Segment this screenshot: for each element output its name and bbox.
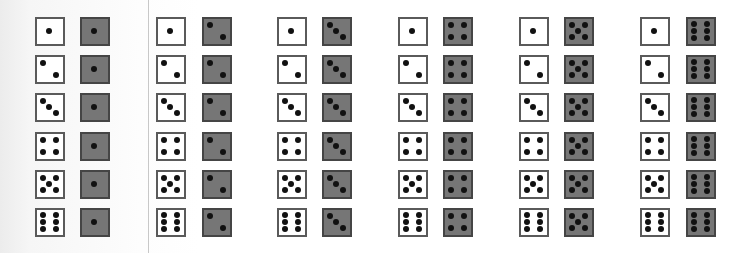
white-die-4 bbox=[519, 132, 549, 161]
pip-icon bbox=[91, 66, 97, 72]
dark-die-3 bbox=[322, 55, 352, 84]
white-die-1 bbox=[640, 17, 670, 46]
pip-icon bbox=[282, 219, 288, 225]
white-die-5 bbox=[277, 170, 307, 199]
pip-icon bbox=[582, 98, 588, 104]
pip-icon bbox=[40, 98, 46, 104]
pip-icon bbox=[448, 98, 454, 104]
pip-icon bbox=[645, 149, 651, 155]
pip-icon bbox=[575, 143, 581, 149]
white-die-4 bbox=[277, 132, 307, 161]
pip-icon bbox=[207, 213, 213, 219]
pip-icon bbox=[282, 212, 288, 218]
pip-icon bbox=[161, 226, 167, 232]
dark-die-3 bbox=[322, 132, 352, 161]
pip-icon bbox=[461, 98, 467, 104]
pip-icon bbox=[295, 72, 301, 78]
pip-icon bbox=[569, 98, 575, 104]
pip-icon bbox=[40, 137, 46, 143]
pip-icon bbox=[530, 28, 536, 34]
pip-icon bbox=[691, 111, 697, 117]
pip-icon bbox=[448, 137, 454, 143]
pip-icon bbox=[53, 212, 59, 218]
pip-icon bbox=[416, 187, 422, 193]
white-die-2 bbox=[35, 55, 65, 84]
pip-icon bbox=[53, 187, 59, 193]
pip-icon bbox=[174, 149, 180, 155]
pip-icon bbox=[582, 22, 588, 28]
dark-die-2 bbox=[202, 93, 232, 122]
pip-icon bbox=[691, 35, 697, 41]
pip-icon bbox=[704, 181, 710, 187]
white-die-4 bbox=[640, 132, 670, 161]
pip-icon bbox=[53, 219, 59, 225]
pip-icon bbox=[220, 110, 226, 116]
pip-icon bbox=[524, 175, 530, 181]
white-die-3 bbox=[156, 93, 186, 122]
dark-die-6 bbox=[686, 132, 716, 161]
dark-die-6 bbox=[686, 93, 716, 122]
dark-die-2 bbox=[202, 208, 232, 237]
pip-icon bbox=[448, 149, 454, 155]
pip-icon bbox=[537, 187, 543, 193]
pip-icon bbox=[53, 226, 59, 232]
dark-die-1 bbox=[80, 55, 110, 84]
pip-icon bbox=[691, 150, 697, 156]
pip-icon bbox=[645, 219, 651, 225]
white-die-1 bbox=[398, 17, 428, 46]
dark-die-6 bbox=[686, 17, 716, 46]
pip-icon bbox=[461, 213, 467, 219]
pip-icon bbox=[582, 187, 588, 193]
white-die-3 bbox=[35, 93, 65, 122]
pip-icon bbox=[416, 72, 422, 78]
white-die-1 bbox=[35, 17, 65, 46]
pip-icon bbox=[220, 149, 226, 155]
pip-icon bbox=[327, 22, 333, 28]
dark-die-3 bbox=[322, 93, 352, 122]
pip-icon bbox=[651, 104, 657, 110]
pip-icon bbox=[691, 66, 697, 72]
dark-die-4 bbox=[443, 170, 473, 199]
pip-icon bbox=[691, 73, 697, 79]
pip-icon bbox=[416, 110, 422, 116]
pip-icon bbox=[569, 225, 575, 231]
pip-icon bbox=[582, 34, 588, 40]
pip-icon bbox=[40, 212, 46, 218]
pip-icon bbox=[174, 219, 180, 225]
pip-icon bbox=[161, 149, 167, 155]
pip-icon bbox=[409, 104, 415, 110]
pip-icon bbox=[658, 110, 664, 116]
pip-icon bbox=[403, 212, 409, 218]
pip-icon bbox=[161, 98, 167, 104]
pip-icon bbox=[691, 212, 697, 218]
dark-die-2 bbox=[202, 170, 232, 199]
pip-icon bbox=[569, 72, 575, 78]
pip-icon bbox=[91, 181, 97, 187]
pip-icon bbox=[282, 226, 288, 232]
pip-icon bbox=[327, 98, 333, 104]
pip-icon bbox=[53, 137, 59, 143]
white-die-2 bbox=[640, 55, 670, 84]
pip-icon bbox=[582, 137, 588, 143]
pip-icon bbox=[524, 60, 530, 66]
pip-icon bbox=[524, 187, 530, 193]
pip-icon bbox=[282, 187, 288, 193]
pip-icon bbox=[704, 104, 710, 110]
pip-icon bbox=[524, 98, 530, 104]
pip-icon bbox=[461, 110, 467, 116]
pip-icon bbox=[461, 225, 467, 231]
pip-icon bbox=[691, 226, 697, 232]
pip-icon bbox=[295, 149, 301, 155]
pip-icon bbox=[282, 98, 288, 104]
pip-icon bbox=[524, 226, 530, 232]
pip-icon bbox=[704, 174, 710, 180]
pip-icon bbox=[691, 143, 697, 149]
pip-icon bbox=[416, 137, 422, 143]
pip-icon bbox=[651, 181, 657, 187]
pip-icon bbox=[645, 137, 651, 143]
pip-icon bbox=[530, 181, 536, 187]
pip-icon bbox=[704, 97, 710, 103]
pip-icon bbox=[524, 219, 530, 225]
white-die-2 bbox=[519, 55, 549, 84]
white-die-4 bbox=[35, 132, 65, 161]
